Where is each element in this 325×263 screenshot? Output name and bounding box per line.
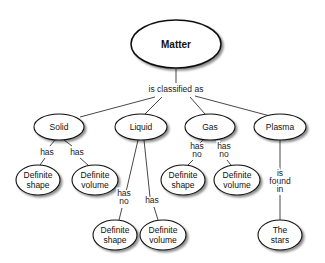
link-label-plasma-stars: in bbox=[277, 184, 284, 194]
link-label-liquid-liquid-shape: no bbox=[119, 196, 129, 206]
node-label: volume bbox=[81, 180, 109, 190]
link-matter-plasma bbox=[195, 96, 270, 116]
node-label: stars bbox=[271, 235, 289, 245]
node-label: Definite bbox=[101, 225, 130, 235]
node-label: Gas bbox=[202, 122, 218, 132]
node-label: Solid bbox=[50, 122, 69, 132]
link-matter-gas bbox=[190, 97, 205, 114]
concept-map-svg: Matter is classified as SolidLiquidGasPl… bbox=[0, 0, 325, 263]
node-liquid-shape: Definiteshape bbox=[93, 220, 137, 250]
link-label-gas-gas-shape: no bbox=[192, 149, 202, 159]
node-liquid: Liquid bbox=[115, 114, 167, 140]
node-gas-shape: Definiteshape bbox=[161, 165, 205, 195]
link-label-is-classified-as: is classified as bbox=[149, 84, 204, 94]
node-label: shape bbox=[171, 180, 194, 190]
node-plasma: Plasma bbox=[254, 114, 306, 140]
node-label: Definite bbox=[149, 225, 178, 235]
node-solid: Solid bbox=[34, 114, 84, 140]
node-label: shape bbox=[26, 180, 49, 190]
node-label: Definite bbox=[81, 170, 110, 180]
node-label: volume bbox=[149, 235, 177, 245]
node-gas: Gas bbox=[185, 114, 235, 140]
node-gas-volume: Definitevolume bbox=[214, 165, 260, 195]
node-liquid-volume: Definitevolume bbox=[140, 220, 186, 250]
link-label-solid-solid-volume: has bbox=[70, 147, 84, 157]
link-label-liquid-liquid-volume: has bbox=[145, 195, 159, 205]
node-label: The bbox=[273, 225, 288, 235]
node-solid-volume: Definitevolume bbox=[72, 165, 118, 195]
concept-map: Matter is classified as SolidLiquidGasPl… bbox=[0, 0, 325, 263]
node-label: Matter bbox=[161, 39, 191, 50]
node-matter: Matter bbox=[131, 20, 221, 68]
node-stars: Thestars bbox=[258, 220, 302, 250]
node-solid-shape: Definiteshape bbox=[16, 165, 60, 195]
node-label: Definite bbox=[24, 170, 53, 180]
node-label: Definite bbox=[223, 170, 252, 180]
node-label: shape bbox=[103, 235, 126, 245]
node-label: volume bbox=[223, 180, 251, 190]
node-label: Plasma bbox=[266, 122, 295, 132]
link-matter-liquid bbox=[145, 97, 162, 114]
node-label: Definite bbox=[169, 170, 198, 180]
node-label: Liquid bbox=[130, 122, 153, 132]
link-label-solid-solid-shape: has bbox=[40, 147, 54, 157]
link-label-gas-gas-volume: no bbox=[219, 149, 229, 159]
